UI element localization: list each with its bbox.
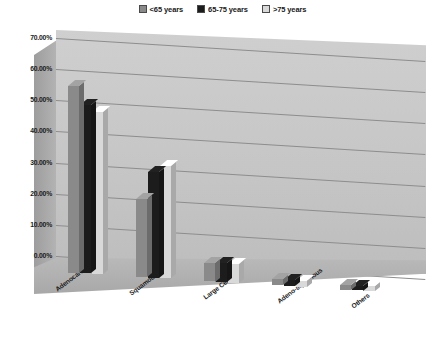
bar-side	[91, 101, 96, 273]
legend-item: >75 years	[262, 5, 307, 14]
y-axis-tick-label: 60.00%	[4, 65, 52, 72]
bar-side	[171, 162, 176, 278]
y-axis-tick-label: 20.00%	[4, 190, 52, 197]
plot-area: 0.00%10.00%20.00%30.00%40.00%50.00%60.00…	[0, 18, 445, 346]
legend-label: 65-75 years	[208, 5, 248, 14]
bar	[272, 279, 283, 285]
legend-swatch-icon	[262, 5, 270, 13]
bar-face	[136, 199, 147, 277]
y-axis: 0.00%10.00%20.00%30.00%40.00%50.00%60.00…	[0, 18, 52, 288]
y-axis-tick-label: 10.00%	[4, 221, 52, 228]
bar-chart: <65 years 65-75 years >75 years 0.00%10.…	[0, 0, 445, 346]
y-axis-tick-label: 0.00%	[4, 252, 52, 259]
legend-swatch-icon	[139, 5, 147, 13]
bar	[136, 199, 147, 277]
bar-face	[340, 285, 351, 290]
bar-side	[159, 168, 164, 278]
legend-item: <65 years	[139, 5, 184, 14]
bar-face	[68, 86, 79, 273]
legend-label: >75 years	[273, 5, 307, 14]
legend-label: <65 years	[150, 5, 184, 14]
bar-face	[272, 279, 283, 285]
bar-side	[79, 82, 84, 273]
x-axis-label: Others	[350, 291, 371, 309]
bar-side	[103, 108, 108, 274]
bar-face	[204, 263, 215, 282]
bar	[340, 285, 351, 290]
y-axis-tick-label: 50.00%	[4, 96, 52, 103]
bar	[204, 263, 215, 282]
y-axis-tick-label: 30.00%	[4, 159, 52, 166]
legend-swatch-icon	[197, 5, 205, 13]
y-axis-tick-label: 70.00%	[4, 34, 52, 41]
bar-side	[239, 260, 244, 283]
chart-legend: <65 years 65-75 years >75 years	[0, 2, 445, 16]
bar	[68, 86, 79, 273]
y-axis-tick-label: 40.00%	[4, 127, 52, 134]
bar-side	[147, 195, 152, 277]
legend-item: 65-75 years	[197, 5, 248, 14]
